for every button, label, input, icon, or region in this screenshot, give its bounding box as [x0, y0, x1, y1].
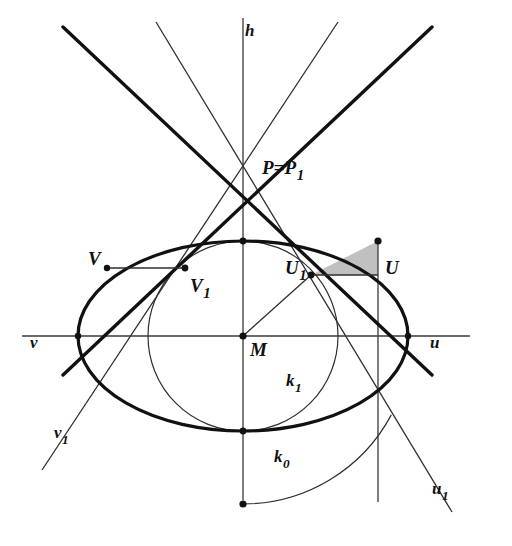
point-u1 — [308, 272, 315, 279]
label-v: V — [88, 249, 101, 268]
label-m: M — [250, 340, 267, 359]
label-h: h — [245, 22, 254, 39]
label-v1: V1 — [190, 276, 210, 295]
label-k1: k1 — [286, 372, 301, 389]
point-u — [374, 237, 381, 244]
point-ellipse-top — [240, 238, 247, 245]
point-v — [104, 265, 110, 271]
label-u1: U1 — [285, 258, 306, 277]
label-k0: k0 — [274, 448, 289, 465]
label-axis-u1: u1 — [432, 480, 448, 497]
label-axis-v1: v1 — [54, 424, 68, 441]
point-m — [239, 332, 246, 339]
point-v1 — [182, 265, 189, 272]
geometry-drawing — [0, 0, 512, 546]
label-axis-u: u — [430, 334, 439, 351]
label-u: U — [385, 258, 399, 277]
segment-m-u1 — [243, 275, 311, 336]
label-axis-v: v — [30, 334, 38, 351]
label-p: P=P1 — [262, 158, 303, 177]
figure-canvas: h P=P1 U U1 V V1 M u u1 v v1 k0 k1 — [0, 0, 512, 546]
point-ellipse-left — [75, 333, 81, 339]
point-k0-end — [239, 500, 246, 507]
point-ellipse-right — [405, 333, 411, 339]
point-ellipse-bottom — [240, 428, 247, 435]
